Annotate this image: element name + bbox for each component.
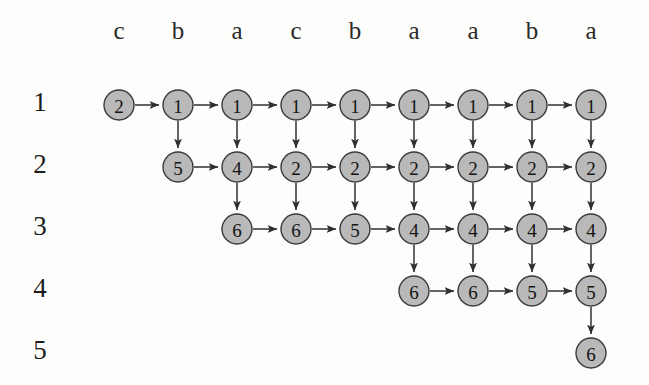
node-circle[interactable]: [517, 276, 547, 306]
node-r2-c3[interactable]: 4: [222, 152, 252, 182]
column-header-4: c: [290, 17, 301, 44]
node-circle[interactable]: [576, 214, 606, 244]
column-header-7: a: [467, 17, 478, 44]
node-circle[interactable]: [517, 152, 547, 182]
column-header-3: a: [231, 17, 242, 44]
column-header-2: b: [172, 17, 185, 44]
node-r3-c9[interactable]: 4: [576, 214, 606, 244]
row-label-1: 1: [33, 87, 47, 117]
diagram-canvas: 21111111154222222665444466556 cbacbaaba …: [0, 0, 649, 385]
node-circle[interactable]: [517, 90, 547, 120]
node-r2-c2[interactable]: 5: [163, 152, 193, 182]
node-circle[interactable]: [222, 152, 252, 182]
node-circle[interactable]: [458, 214, 488, 244]
node-circle[interactable]: [281, 90, 311, 120]
node-circle[interactable]: [104, 90, 134, 120]
column-header-6: a: [408, 17, 419, 44]
node-r1-c7[interactable]: 1: [458, 90, 488, 120]
node-circle[interactable]: [576, 276, 606, 306]
node-circle[interactable]: [399, 90, 429, 120]
node-r2-c8[interactable]: 2: [517, 152, 547, 182]
node-r3-c6[interactable]: 4: [399, 214, 429, 244]
row-labels: 12345: [33, 87, 47, 365]
node-circle[interactable]: [399, 214, 429, 244]
node-circle[interactable]: [281, 152, 311, 182]
node-r4-c6[interactable]: 6: [399, 276, 429, 306]
row-label-3: 3: [33, 211, 47, 241]
node-r3-c8[interactable]: 4: [517, 214, 547, 244]
node-r3-c5[interactable]: 5: [340, 214, 370, 244]
node-r3-c4[interactable]: 6: [281, 214, 311, 244]
node-circle[interactable]: [576, 338, 606, 368]
row-label-2: 2: [33, 149, 47, 179]
node-r1-c2[interactable]: 1: [163, 90, 193, 120]
node-circle[interactable]: [222, 214, 252, 244]
node-r1-c4[interactable]: 1: [281, 90, 311, 120]
node-circle[interactable]: [281, 214, 311, 244]
node-circle[interactable]: [340, 152, 370, 182]
node-r4-c9[interactable]: 5: [576, 276, 606, 306]
node-r2-c7[interactable]: 2: [458, 152, 488, 182]
column-header-8: b: [526, 17, 539, 44]
node-r3-c3[interactable]: 6: [222, 214, 252, 244]
node-r1-c5[interactable]: 1: [340, 90, 370, 120]
node-r2-c5[interactable]: 2: [340, 152, 370, 182]
column-header-1: c: [113, 17, 124, 44]
node-circle[interactable]: [340, 90, 370, 120]
node-r2-c9[interactable]: 2: [576, 152, 606, 182]
column-headers: cbacbaaba: [113, 17, 596, 44]
node-r1-c3[interactable]: 1: [222, 90, 252, 120]
node-circle[interactable]: [458, 90, 488, 120]
node-r1-c1[interactable]: 2: [104, 90, 134, 120]
node-r1-c6[interactable]: 1: [399, 90, 429, 120]
node-circle[interactable]: [340, 214, 370, 244]
node-r4-c8[interactable]: 5: [517, 276, 547, 306]
node-circle[interactable]: [163, 152, 193, 182]
node-circle[interactable]: [517, 214, 547, 244]
node-r2-c6[interactable]: 2: [399, 152, 429, 182]
node-circle[interactable]: [458, 276, 488, 306]
node-r4-c7[interactable]: 6: [458, 276, 488, 306]
node-r1-c9[interactable]: 1: [576, 90, 606, 120]
node-r1-c8[interactable]: 1: [517, 90, 547, 120]
node-circle[interactable]: [163, 90, 193, 120]
row-label-4: 4: [33, 273, 47, 303]
row-label-5: 5: [33, 335, 47, 365]
node-circle[interactable]: [222, 90, 252, 120]
column-header-9: a: [585, 17, 596, 44]
node-circle[interactable]: [576, 90, 606, 120]
node-circle[interactable]: [576, 152, 606, 182]
column-header-5: b: [349, 17, 362, 44]
node-r5-c9[interactable]: 6: [576, 338, 606, 368]
node-circle[interactable]: [399, 152, 429, 182]
node-r2-c4[interactable]: 2: [281, 152, 311, 182]
node-circle[interactable]: [399, 276, 429, 306]
node-r3-c7[interactable]: 4: [458, 214, 488, 244]
alignment-lattice-graph: 21111111154222222665444466556 cbacbaaba …: [0, 0, 649, 385]
node-circle[interactable]: [458, 152, 488, 182]
